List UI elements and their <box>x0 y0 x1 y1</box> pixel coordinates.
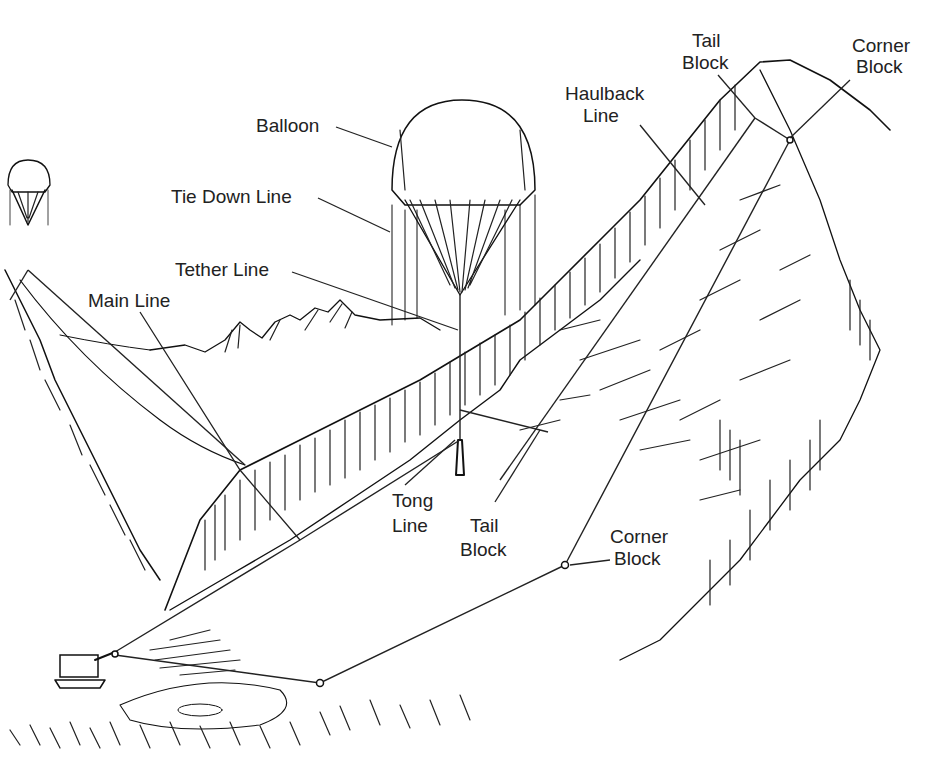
label-corner-block-low-1: Corner <box>610 526 669 547</box>
label-tail-block-low-2: Block <box>460 539 507 560</box>
label-tether-line: Tether Line <box>175 259 269 280</box>
distant-balloon <box>8 160 50 225</box>
label-tong-line-1: Tong <box>392 490 433 511</box>
label-corner-block-low-2: Block <box>614 548 661 569</box>
yarder-machine <box>55 652 115 688</box>
label-main-line: Main Line <box>88 290 170 311</box>
left-slope <box>5 270 245 580</box>
label-tail-block-top-2: Block <box>682 52 729 73</box>
haulback-right-cable <box>565 140 790 565</box>
diagram-canvas: Balloon Tie Down Line Tether Line Main L… <box>0 0 940 765</box>
label-tie-down-line: Tie Down Line <box>171 186 292 207</box>
tail-corner-cable <box>755 118 790 140</box>
illustration: Balloon Tie Down Line Tether Line Main L… <box>0 0 940 765</box>
tong-line-cable <box>460 410 548 432</box>
main-line-cable <box>115 440 460 652</box>
haulback-left-cable <box>500 118 755 480</box>
label-tong-line-2: Line <box>392 515 428 536</box>
label-haulback-line-2: Line <box>583 105 619 126</box>
label-corner-block-top-1: Corner <box>852 35 911 56</box>
label-tail-block-low-1: Tail <box>470 515 499 536</box>
corner-block-low-marker <box>562 562 569 569</box>
label-balloon: Balloon <box>256 115 319 136</box>
label-corner-block-top-2: Block <box>856 56 903 77</box>
label-tail-block-top-1: Tail <box>692 30 721 51</box>
yarder-block-marker <box>112 651 118 657</box>
logging-slope <box>150 70 880 675</box>
landing-area <box>10 652 470 748</box>
leader-lines <box>140 75 850 565</box>
balloon <box>392 100 535 475</box>
landing-block-marker <box>317 680 324 687</box>
label-haulback-line-1: Haulback <box>565 83 645 104</box>
